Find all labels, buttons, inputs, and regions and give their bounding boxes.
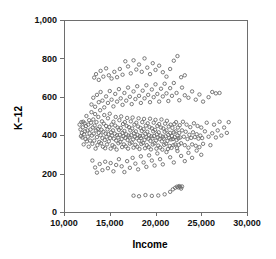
data-point (195, 149, 198, 152)
data-point (161, 95, 164, 98)
data-point (126, 147, 129, 150)
x-tick-label: 25,000 (187, 218, 215, 228)
data-point (160, 118, 163, 121)
data-point (131, 116, 134, 119)
data-point (181, 120, 184, 123)
data-point (186, 137, 189, 140)
data-point (97, 115, 100, 118)
data-point (170, 94, 173, 97)
data-point (90, 103, 93, 106)
data-point (140, 70, 143, 73)
data-point (153, 164, 156, 167)
data-point (146, 66, 149, 69)
data-point (93, 166, 96, 169)
data-point (172, 59, 175, 62)
data-point (190, 143, 193, 146)
data-point (110, 98, 113, 101)
data-point (101, 99, 104, 102)
chart-canvas: 10,00015,00020,00025,00030,000 020040060… (0, 0, 276, 259)
data-point (147, 154, 150, 157)
data-point (117, 87, 120, 90)
data-point (148, 72, 151, 75)
data-point (184, 130, 187, 133)
data-point (189, 125, 192, 128)
data-point (131, 156, 134, 159)
data-point (141, 89, 144, 92)
data-point (207, 95, 210, 98)
x-tick-label: 10,000 (50, 218, 78, 228)
data-point (112, 105, 115, 108)
data-point (142, 117, 145, 120)
data-point (172, 161, 175, 164)
data-point (151, 62, 154, 65)
data-point (216, 129, 219, 132)
x-axis-title: Income (132, 239, 167, 250)
data-point (168, 86, 171, 89)
data-point (112, 120, 115, 123)
data-point (119, 97, 122, 100)
data-point (194, 98, 197, 101)
data-point (132, 59, 135, 62)
data-point (145, 84, 148, 87)
data-point (165, 75, 168, 78)
data-point (118, 119, 121, 122)
data-point (214, 92, 217, 95)
data-point (124, 60, 127, 63)
data-point (172, 81, 175, 84)
data-point (143, 57, 146, 60)
data-point (148, 100, 151, 103)
data-point (117, 158, 120, 161)
x-tick-label: 15,000 (96, 218, 124, 228)
data-point (89, 121, 92, 124)
data-point (93, 112, 96, 115)
data-point (183, 74, 186, 77)
data-point (134, 162, 137, 165)
data-point (187, 146, 190, 149)
data-point (126, 65, 129, 68)
data-point (95, 171, 98, 174)
data-point (209, 143, 212, 146)
data-point (143, 97, 146, 100)
data-point (128, 166, 131, 169)
data-point (94, 147, 97, 150)
y-tick-label: 600 (42, 92, 57, 102)
x-tick-label: 30,000 (233, 218, 261, 228)
data-point (137, 94, 140, 97)
data-point (86, 135, 89, 138)
data-point (179, 76, 182, 79)
data-point (163, 193, 166, 196)
data-point (114, 92, 117, 95)
data-point (139, 101, 142, 104)
data-point (154, 118, 157, 121)
data-point (115, 148, 118, 151)
data-point (190, 90, 193, 93)
data-point (195, 133, 198, 136)
data-point (196, 124, 199, 127)
data-point (92, 96, 95, 99)
data-point (114, 163, 117, 166)
data-point (108, 112, 111, 115)
data-point (119, 115, 122, 118)
data-point (95, 93, 98, 96)
data-point (98, 162, 101, 165)
data-point (94, 72, 97, 75)
y-axis-title: K–12 (13, 106, 24, 130)
data-point (121, 73, 124, 76)
x-tick-label: 20,000 (142, 218, 170, 228)
data-point (194, 144, 197, 147)
data-point (129, 72, 132, 75)
data-point (144, 193, 147, 196)
data-point (183, 159, 186, 162)
data-point (98, 109, 101, 112)
data-point (137, 117, 140, 120)
data-point (200, 153, 203, 156)
data-point (137, 195, 140, 198)
data-point (179, 154, 182, 157)
data-point (115, 100, 118, 103)
data-point (198, 93, 201, 96)
data-point (227, 120, 230, 123)
data-point (178, 99, 181, 102)
data-point (159, 87, 162, 90)
data-point (145, 165, 148, 168)
data-point (95, 135, 98, 138)
